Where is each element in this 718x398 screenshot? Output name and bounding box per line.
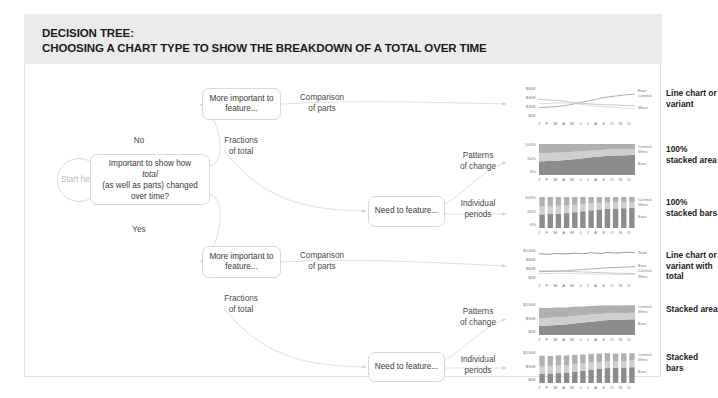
edge-label-patterns-bottom: Patterns of change bbox=[450, 307, 506, 328]
chart-legend-entry: Total bbox=[638, 250, 662, 255]
question-node-label: Important to show how total (as well as … bbox=[91, 158, 209, 202]
chart-plot bbox=[538, 352, 636, 383]
chart-y-tick: $100K bbox=[523, 302, 536, 307]
chart-legend: TotalEastCentralWest bbox=[638, 250, 662, 279]
chart-y-tick: 0% bbox=[530, 169, 536, 174]
chart-y-tick: 50% bbox=[527, 209, 536, 214]
edge-label-individual-bottom: Individual periods bbox=[452, 355, 504, 376]
edge-label-patterns-top: Patterns of change bbox=[450, 151, 506, 172]
node-more-important-top-label: More important to feature... bbox=[203, 94, 280, 115]
chart-y-tick: $50K bbox=[526, 316, 536, 321]
edge-label-fractions-top: Fractions of total bbox=[214, 136, 268, 157]
edge-label-yes: Yes bbox=[124, 225, 154, 236]
chart-y-tick: $20K bbox=[526, 104, 536, 109]
chart-plot bbox=[538, 144, 636, 175]
chart-legend: CentralWestEast bbox=[638, 144, 662, 167]
chart-y-tick: $40K bbox=[526, 95, 536, 100]
question-text-part1: Important to show how bbox=[95, 158, 205, 169]
chart-y-tick: $0K bbox=[528, 377, 536, 382]
chart-legend-entry: East bbox=[638, 369, 662, 374]
chart-legend-entry: West bbox=[638, 105, 662, 110]
chart-y-axis: $100K$50K$0K bbox=[510, 350, 536, 386]
question-node: Important to show how total (as well as … bbox=[90, 154, 210, 205]
node-need-feature-top-label: Need to feature... bbox=[371, 206, 442, 217]
chart-y-tick: 100% bbox=[525, 142, 536, 147]
question-text-part2: (as well as parts) changed over time? bbox=[95, 180, 205, 202]
node-more-important-top: More important to feature... bbox=[202, 88, 281, 120]
chart-y-tick: $0K bbox=[528, 275, 536, 280]
chart-plot bbox=[538, 197, 636, 228]
chart-x-axis-months: J F M A M J J A S O N D bbox=[538, 337, 636, 342]
chart-y-tick: 100% bbox=[525, 195, 536, 200]
node-more-important-bottom: More important to feature... bbox=[202, 246, 281, 278]
edge-label-fractions-bottom: Fractions of total bbox=[214, 294, 268, 315]
page-title-line2: CHOOSING A CHART TYPE TO SHOW THE BREAKD… bbox=[42, 42, 487, 54]
node-need-feature-bottom-label: Need to feature... bbox=[371, 362, 442, 373]
chart-legend: CentralWestEast bbox=[638, 197, 662, 220]
chart-legend-entry: East bbox=[638, 161, 662, 166]
question-text-emphasis: total bbox=[142, 170, 157, 179]
node-need-feature-bottom: Need to feature... bbox=[368, 352, 445, 382]
chart-y-tick: $60K bbox=[526, 86, 536, 91]
chart-x-axis-months: J F M A M J J A S O N D bbox=[538, 283, 636, 288]
chart-plot bbox=[538, 88, 636, 119]
chart-y-tick: $100K bbox=[523, 248, 536, 253]
edge-label-comparison-top: Comparison of parts bbox=[292, 93, 352, 114]
chart-y-axis: 100%50%0% bbox=[510, 142, 536, 178]
chart-legend-entry: East bbox=[638, 214, 662, 219]
diagram-card: DECISION TREE: CHOOSING A CHART TYPE TO … bbox=[24, 14, 662, 378]
chart-legend-entry: West bbox=[638, 274, 662, 279]
chart-y-axis: 100%50%0% bbox=[510, 195, 536, 231]
chart-y-tick: $0K bbox=[528, 113, 536, 118]
chart-y-axis: $60K$40K$20K$0K bbox=[510, 86, 536, 122]
chart-legend: EastCentralWest bbox=[638, 88, 662, 111]
chart-type-caption: 100% stacked bars bbox=[666, 197, 718, 218]
chart-y-tick: $0K bbox=[528, 329, 536, 334]
chart-x-axis-months: J F M A M J J A S O N D bbox=[538, 177, 636, 182]
chart-legend-entry: West bbox=[638, 149, 662, 154]
edge-label-individual-top: Individual periods bbox=[452, 199, 504, 220]
chart-legend: CentralWestEast bbox=[638, 352, 662, 375]
chart-type-caption: Stacked bars bbox=[666, 352, 718, 373]
chart-type-caption: 100% stacked area bbox=[666, 144, 718, 165]
node-more-important-bottom-label: More important to feature... bbox=[203, 252, 280, 273]
chart-y-tick: 0% bbox=[530, 222, 536, 227]
chart-y-tick: $60K bbox=[526, 257, 536, 262]
chart-type-caption: Stacked area bbox=[666, 304, 718, 315]
chart-legend-entry: West bbox=[638, 309, 662, 314]
chart-legend-entry: West bbox=[638, 357, 662, 362]
chart-y-axis: $100K$50K$0K bbox=[510, 302, 536, 338]
chart-x-axis-months: J F M A M J J A S O N D bbox=[538, 230, 636, 235]
chart-legend: CentralWestEast bbox=[638, 304, 662, 327]
node-need-feature-top: Need to feature... bbox=[368, 196, 445, 227]
chart-x-axis-months: J F M A M J J A S O N D bbox=[538, 121, 636, 126]
chart-type-caption: Line chart or variant with total bbox=[666, 250, 718, 282]
chart-y-tick: $60K bbox=[526, 266, 536, 271]
chart-legend-entry: Central bbox=[638, 93, 662, 98]
chart-legend-entry: West bbox=[638, 202, 662, 207]
edge-label-comparison-bottom: Comparison of parts bbox=[292, 251, 352, 272]
chart-type-caption: Line chart or variant bbox=[666, 88, 718, 109]
chart-plot bbox=[538, 250, 636, 281]
chart-legend-entry: East bbox=[638, 321, 662, 326]
chart-x-axis-months: J F M A M J J A S O N D bbox=[538, 385, 636, 390]
chart-y-tick: $100K bbox=[523, 350, 536, 355]
chart-y-tick: 50% bbox=[527, 156, 536, 161]
chart-y-tick: $50K bbox=[526, 364, 536, 369]
edge-label-no: No bbox=[124, 136, 154, 147]
chart-y-axis: $100K$60K$60K$0K bbox=[510, 248, 536, 284]
card-header: DECISION TREE: CHOOSING A CHART TYPE TO … bbox=[24, 14, 662, 64]
chart-plot bbox=[538, 304, 636, 335]
page-title-line1: DECISION TREE: bbox=[42, 27, 134, 39]
